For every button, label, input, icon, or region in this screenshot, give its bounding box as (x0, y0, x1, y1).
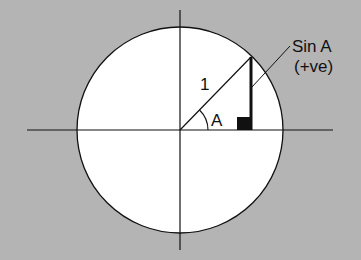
right-angle-marker (237, 117, 251, 130)
sign-label: (+ve) (294, 57, 333, 76)
angle-label: A (211, 111, 223, 130)
diagram-canvas: 1 A Sin A (+ve) (0, 0, 361, 260)
sin-label: Sin A (292, 37, 332, 56)
unit-circle-diagram: 1 A Sin A (+ve) (0, 0, 361, 260)
radius-label: 1 (200, 75, 209, 94)
